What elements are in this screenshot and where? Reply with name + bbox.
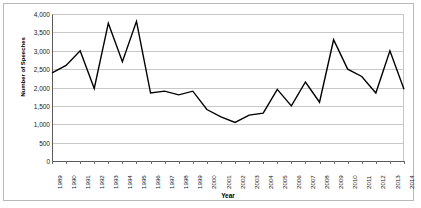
x-axis-tick-label: 1992 xyxy=(98,165,105,189)
x-axis-tick-label: 2007 xyxy=(309,165,316,189)
x-axis-tick-mark xyxy=(362,161,363,164)
x-axis-tick-mark xyxy=(165,161,166,164)
x-axis-tick-label: 2008 xyxy=(323,165,330,189)
x-axis-tick-mark xyxy=(136,161,137,164)
x-axis-tick-mark xyxy=(376,161,377,164)
x-axis-tick-mark xyxy=(108,161,109,164)
x-axis-tick-label: 1989 xyxy=(56,165,63,189)
x-axis-tick-mark xyxy=(404,161,405,164)
x-axis-tick-mark xyxy=(151,161,152,164)
y-axis-tick-label: 0 xyxy=(22,158,50,165)
x-axis-tick-label: 1998 xyxy=(182,165,189,189)
x-axis-title: Year xyxy=(52,192,404,199)
x-axis-tick-label: 1997 xyxy=(168,165,175,189)
x-axis-tick-mark xyxy=(334,161,335,164)
x-axis-tick-mark xyxy=(221,161,222,164)
y-axis-tick-labels: 05001,0001,5002,0002,5003,0003,5004,000 xyxy=(20,4,50,202)
y-axis-tick-label: 1,500 xyxy=(22,102,50,109)
y-axis-tick-label: 2,000 xyxy=(22,84,50,91)
x-axis-tick-mark xyxy=(52,161,53,164)
x-axis-tick-label: 1996 xyxy=(154,165,161,189)
x-axis-tick-label: 1999 xyxy=(196,165,203,189)
x-axis-tick-label: 1994 xyxy=(126,165,133,189)
x-axis-tick-label: 2000 xyxy=(210,165,217,189)
x-axis-tick-label: 2012 xyxy=(379,165,386,189)
y-axis-tick-label: 3,000 xyxy=(22,47,50,54)
x-axis-tick-mark xyxy=(249,161,250,164)
x-axis-tick-label: 2001 xyxy=(225,165,232,189)
x-axis-tick-label: 1993 xyxy=(112,165,119,189)
x-axis-tick-label: 2002 xyxy=(239,165,246,189)
x-axis-tick-label: 2013 xyxy=(394,165,401,189)
x-axis-tick-label: 1991 xyxy=(84,165,91,189)
line-series xyxy=(52,14,404,161)
x-axis-tick-mark xyxy=(80,161,81,164)
x-axis-tick-mark xyxy=(207,161,208,164)
x-axis-tick-label: 2005 xyxy=(281,165,288,189)
x-axis-tick-mark xyxy=(235,161,236,164)
x-axis-tick-label: 2010 xyxy=(351,165,358,189)
x-axis-tick-mark xyxy=(193,161,194,164)
x-axis-tick-mark xyxy=(348,161,349,164)
x-axis-tick-label: 1990 xyxy=(70,165,77,189)
y-axis-tick-label: 1,000 xyxy=(22,121,50,128)
y-axis-tick-label: 500 xyxy=(22,139,50,146)
y-axis-tick-label: 2,500 xyxy=(22,66,50,73)
plot-area xyxy=(52,14,404,161)
x-axis-tick-mark xyxy=(263,161,264,164)
chart-container: Number of Speeches 05001,0001,5002,0002,… xyxy=(3,3,414,201)
x-axis-tick-mark xyxy=(66,161,67,164)
x-axis-tick-label: 2006 xyxy=(295,165,302,189)
x-axis-tick-mark xyxy=(390,161,391,164)
x-axis-tick-label: 2004 xyxy=(267,165,274,189)
x-axis-tick-label: 2009 xyxy=(337,165,344,189)
x-axis-tick-labels: 1989199019911992199319941995199619971998… xyxy=(52,165,404,191)
x-axis-tick-mark xyxy=(122,161,123,164)
x-axis-tick-mark xyxy=(94,161,95,164)
y-axis-tick-label: 4,000 xyxy=(22,11,50,18)
x-axis-tick-label: 2014 xyxy=(408,165,415,189)
x-axis-tick-mark xyxy=(291,161,292,164)
x-axis-tick-mark xyxy=(320,161,321,164)
x-axis-tick-label: 1995 xyxy=(140,165,147,189)
x-axis-tick-mark xyxy=(305,161,306,164)
x-axis-tick-mark xyxy=(277,161,278,164)
x-axis-tick-label: 2011 xyxy=(365,165,372,189)
y-axis-tick-label: 3,500 xyxy=(22,29,50,36)
x-axis-tick-label: 2003 xyxy=(253,165,260,189)
x-axis-tick-mark xyxy=(179,161,180,164)
